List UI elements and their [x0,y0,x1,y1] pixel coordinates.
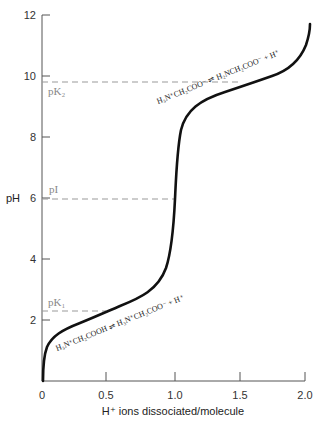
x-tick-label: 1.5 [232,389,247,401]
y-axis-title: pH [6,192,20,204]
y-tick-label: 2 [30,314,36,326]
y-tick-label: 10 [24,70,36,82]
x-ticks [106,372,305,381]
pi-label: pI [49,183,59,195]
x-axis-title: H⁺ ions dissociated/molecule [102,405,244,417]
y-tick-label: 4 [30,253,36,265]
y-tick-label: 12 [24,9,36,21]
x-tick-label: 2.0 [297,389,312,401]
x-tick-label: 0.5 [98,389,113,401]
y-tick-label: 6 [30,192,36,204]
pk2-label: pK₂ [48,85,65,97]
y-ticks [42,15,50,320]
pk1-label: pK₁ [48,296,65,308]
x-tick-label: 0 [39,389,45,401]
titration-curve [43,24,310,381]
equilibrium-lower: H₃N⁺CH₂COOH ⇌ H₃N⁺CH₂COO⁻ + H⁺ [54,293,185,353]
titration-chart: 12 10 8 6 4 2 0 0.5 1.0 1.5 2.0 pH H⁺ io… [0,0,327,421]
equilibrium-upper: H₃N⁺CH₂COO⁻ ⇌ H₂NCH₂COO⁻ + H⁺ [155,48,280,106]
y-tick-label: 8 [30,131,36,143]
x-tick-label: 1.0 [167,389,182,401]
